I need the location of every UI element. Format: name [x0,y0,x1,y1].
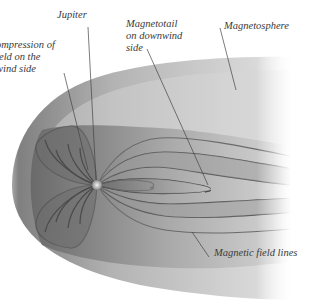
magnetosphere-diagram: Jupiter ompression of eld on the wind si… [0,0,313,308]
label-jupiter-text: Jupiter [57,9,87,21]
label-field-lines-text: Magnetic field lines [214,247,297,259]
label-magnetotail-line3: side [126,42,182,54]
label-magnetosphere-text: Magnetosphere [224,20,289,32]
label-magnetotail-line2: on downwind [126,30,182,42]
label-magnetotail: Magnetotail on downwind side [126,18,182,54]
label-compression-line3: wind side [0,63,55,75]
label-field-lines: Magnetic field lines [214,247,297,259]
label-compression-line2: eld on the [0,51,55,63]
label-magnetosphere: Magnetosphere [224,20,289,32]
label-compression-line1: ompression of [0,39,55,51]
label-jupiter: Jupiter [57,9,87,21]
label-compression: ompression of eld on the wind side [0,39,55,75]
label-magnetotail-line1: Magnetotail [126,18,182,30]
